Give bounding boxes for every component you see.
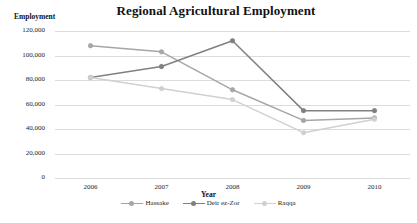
legend-item[interactable]: Deir ez-Zor (183, 199, 240, 207)
y-axis-tick-label: 40,000 (0, 125, 45, 132)
data-point-marker (230, 97, 234, 101)
legend-label: Hassake (145, 199, 168, 207)
chart-container: Regional Agricultural Employment Employm… (0, 0, 417, 223)
legend-item[interactable]: Raqqa (254, 199, 296, 207)
gridline (55, 178, 410, 179)
x-axis-title: Year (0, 190, 417, 199)
y-axis-title: Employment (14, 12, 55, 21)
data-point-marker (159, 64, 163, 68)
legend-label: Raqqa (278, 199, 296, 207)
legend-item[interactable]: Hassake (121, 199, 168, 207)
y-axis-tick-label: 0 (0, 174, 45, 181)
y-axis-tick-label: 120,000 (0, 27, 45, 34)
legend-marker-icon (254, 200, 276, 207)
legend-label: Deir ez-Zor (207, 199, 240, 207)
chart-legend: HassakeDeir ez-ZorRaqqa (0, 199, 417, 207)
caption-text (8, 215, 338, 223)
series-line (91, 46, 375, 121)
series-line (91, 78, 375, 133)
y-axis-tick-label: 20,000 (0, 150, 45, 157)
data-point-marker (230, 88, 234, 92)
legend-marker-icon (121, 200, 143, 207)
legend-marker-icon (183, 200, 205, 207)
plot-area: 020,00040,00060,00080,000100,000120,000 … (55, 31, 410, 178)
data-point-marker (372, 108, 376, 112)
data-point-marker (88, 44, 92, 48)
data-point-marker (301, 108, 305, 112)
y-axis-tick-label: 80,000 (0, 76, 45, 83)
data-point-marker (372, 117, 376, 121)
data-point-marker (301, 118, 305, 122)
data-point-marker (159, 86, 163, 90)
series-lines (55, 31, 410, 178)
data-point-marker (230, 39, 234, 43)
data-point-marker (159, 50, 163, 54)
y-axis-tick-label: 60,000 (0, 101, 45, 108)
data-point-marker (88, 75, 92, 79)
data-point-marker (301, 130, 305, 134)
chart-title: Regional Agricultural Employment (96, 3, 336, 19)
y-axis-tick-label: 100,000 (0, 52, 45, 59)
